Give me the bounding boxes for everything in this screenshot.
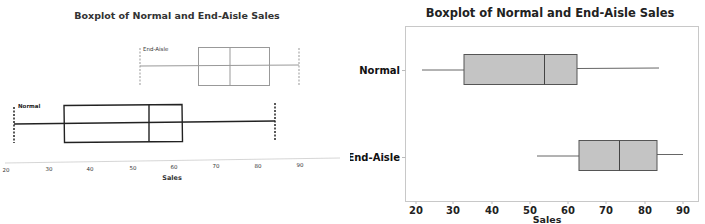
left-boxplot-panel: Boxplot of Normal and End-Aisle Sales En…: [0, 0, 350, 224]
right-tick-80: 80: [638, 205, 652, 216]
left-tick-60: 60: [171, 164, 178, 170]
left-x-ticks: 20 30 40 50 60 70 80 90: [3, 162, 304, 173]
right-plot-frame: [406, 27, 699, 202]
left-x-axis: [5, 158, 340, 163]
left-tick-20: 20: [3, 167, 10, 173]
right-tick-60: 60: [561, 205, 575, 216]
right-normal-upper-whisker: [577, 68, 659, 69]
left-tick-50: 50: [130, 165, 137, 171]
left-x-axis-label: Sales: [162, 174, 182, 182]
right-tick-70: 70: [599, 205, 613, 216]
left-end-aisle-label: End-Aisle: [143, 46, 169, 52]
right-tick-40: 40: [485, 205, 499, 216]
right-tick-20: 20: [409, 205, 423, 216]
right-end-aisle-label: End-Aisle: [350, 152, 400, 163]
left-tick-90: 90: [297, 162, 304, 168]
left-end-aisle-iqr: [199, 48, 270, 86]
left-tick-30: 30: [46, 166, 53, 172]
left-tick-40: 40: [87, 166, 94, 172]
right-chart-title: Boxplot of Normal and End-Aisle Sales: [426, 6, 675, 20]
right-normal-label: Normal: [359, 65, 400, 76]
left-tick-70: 70: [213, 163, 220, 169]
right-boxplot-chart: Boxplot of Normal and End-Aisle Sales No…: [350, 0, 705, 224]
right-tick-90: 90: [676, 205, 690, 216]
left-end-aisle-box: End-Aisle: [140, 46, 299, 86]
right-tick-30: 30: [446, 205, 460, 216]
left-normal-whisker: [14, 121, 275, 124]
left-end-aisle-whisker: [140, 65, 299, 66]
right-normal-iqr: [464, 55, 577, 85]
left-normal-box: Normal: [14, 103, 275, 143]
right-x-axis-label: Sales: [533, 214, 562, 224]
left-tick-80: 80: [255, 163, 262, 169]
right-boxplot-panel: Boxplot of Normal and End-Aisle Sales No…: [350, 0, 705, 224]
left-boxplot-chart: Boxplot of Normal and End-Aisle Sales En…: [0, 0, 350, 224]
right-end-aisle-iqr: [579, 141, 657, 171]
left-normal-label: Normal: [18, 103, 41, 109]
left-chart-title: Boxplot of Normal and End-Aisle Sales: [74, 10, 280, 21]
